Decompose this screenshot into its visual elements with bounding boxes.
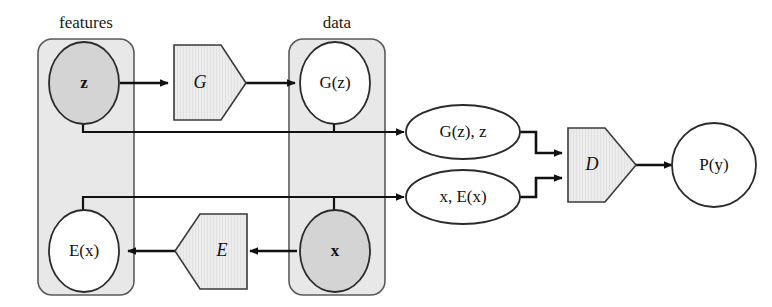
node-Gz: G(z) bbox=[300, 42, 370, 124]
node-Py-label: P(y) bbox=[699, 155, 728, 174]
node-z: z bbox=[49, 42, 119, 124]
edge-pair2-D-path bbox=[519, 178, 562, 197]
pair-gz-z: G(z), z bbox=[406, 105, 520, 159]
node-z-label: z bbox=[80, 73, 88, 92]
operator-E: E bbox=[175, 214, 247, 289]
node-Ex-label: E(x) bbox=[69, 241, 99, 260]
pair-gz-z-label: G(z), z bbox=[439, 122, 487, 141]
operator-G-shape bbox=[174, 45, 246, 120]
bigan-architecture-diagram: features data bbox=[0, 0, 772, 307]
node-x: x bbox=[300, 210, 370, 292]
diagram-canvas: features data bbox=[0, 0, 772, 307]
node-x-label: x bbox=[331, 241, 340, 260]
node-Py: P(y) bbox=[672, 123, 756, 207]
operator-D: D bbox=[568, 128, 636, 202]
pair-x-ex-label: x, E(x) bbox=[439, 187, 486, 206]
operator-G-label: G bbox=[194, 72, 207, 92]
operator-G: G bbox=[174, 45, 246, 120]
edge-pair-x-ex-to-D bbox=[519, 178, 562, 197]
operator-E-label: E bbox=[216, 240, 228, 260]
operator-E-shape bbox=[175, 214, 247, 289]
operator-D-shape bbox=[568, 128, 636, 202]
edge-pair1-D-path bbox=[519, 132, 562, 153]
plate-data-label: data bbox=[323, 13, 352, 32]
edge-pair-gz-z-to-D bbox=[519, 132, 562, 153]
operator-D-label: D bbox=[585, 154, 599, 174]
pair-x-ex: x, E(x) bbox=[406, 170, 520, 224]
node-Gz-label: G(z) bbox=[319, 73, 350, 92]
node-Ex: E(x) bbox=[49, 210, 119, 292]
plate-features-label: features bbox=[59, 13, 113, 32]
